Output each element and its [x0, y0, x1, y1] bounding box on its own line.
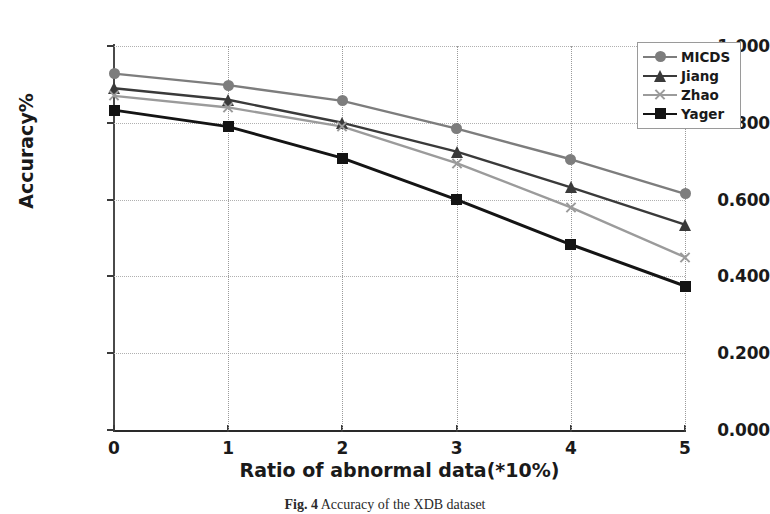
data-point-yager-0: [109, 105, 120, 116]
legend-label: Jiang: [677, 68, 719, 84]
data-point-zhao-4: [564, 201, 577, 214]
caption-text: Accuracy of the XDB dataset: [321, 497, 486, 512]
y-tick-mark: [107, 122, 114, 124]
legend-item-zhao[interactable]: Zhao: [643, 85, 735, 104]
legend-label: Yager: [677, 106, 724, 122]
legend-swatch-jiang: [643, 68, 677, 84]
data-point-jiang-4: [565, 181, 577, 193]
y-tick-label: 0.400: [684, 266, 770, 286]
y-tick-mark: [107, 352, 114, 354]
figure: Accuracy% Ratio of abnormal data(*10%) 0…: [0, 0, 770, 514]
series-lines: [114, 46, 685, 430]
y-tick-label: 0.200: [684, 343, 770, 363]
data-point-micds-1: [223, 80, 234, 91]
data-point-yager-3: [451, 194, 462, 205]
legend-item-micds[interactable]: MICDS: [643, 47, 735, 66]
x-tick-label: 5: [665, 438, 705, 458]
series-line-zhao: [114, 96, 685, 257]
data-point-micds-5: [680, 188, 691, 199]
data-point-zhao-5: [679, 251, 692, 264]
data-point-yager-4: [565, 239, 576, 250]
x-tick-label: 0: [94, 438, 134, 458]
data-point-yager-5: [680, 281, 691, 292]
legend-label: MICDS: [677, 49, 730, 65]
x-tick-label: 2: [322, 438, 362, 458]
legend-swatch-zhao: [643, 87, 677, 103]
y-tick-mark: [107, 275, 114, 277]
y-axis-label: Accuracy%: [15, 51, 37, 251]
data-point-zhao-3: [450, 157, 463, 170]
legend-swatch-yager: [643, 106, 677, 122]
data-point-jiang-5: [679, 219, 691, 231]
series-line-micds: [114, 74, 685, 194]
plot-area: [114, 46, 685, 430]
legend-item-jiang[interactable]: Jiang: [643, 66, 735, 85]
x-tick-label: 3: [437, 438, 477, 458]
figure-caption: Fig. 4 Accuracy of the XDB dataset: [0, 497, 770, 513]
x-tick-label: 4: [551, 438, 591, 458]
y-tick-mark: [107, 199, 114, 201]
x-tick-label: 1: [208, 438, 248, 458]
caption-figure-number: Fig. 4: [284, 497, 317, 512]
data-point-yager-1: [223, 121, 234, 132]
y-tick-label: 0.600: [684, 190, 770, 210]
legend-item-yager[interactable]: Yager: [643, 104, 735, 123]
x-axis-line: [113, 430, 686, 432]
data-point-zhao-0: [108, 89, 121, 102]
legend-swatch-micds: [643, 49, 677, 65]
data-point-micds-4: [565, 154, 576, 165]
x-axis-label: Ratio of abnormal data(*10%): [113, 459, 686, 481]
data-point-zhao-2: [336, 120, 349, 133]
legend[interactable]: MICDSJiangZhaoYager: [637, 42, 741, 129]
data-point-yager-2: [337, 153, 348, 164]
data-point-micds-0: [109, 68, 120, 79]
series-line-jiang: [114, 88, 685, 224]
y-tick-mark: [107, 45, 114, 47]
y-tick-label: 0.000: [684, 420, 770, 440]
legend-label: Zhao: [677, 87, 719, 103]
data-point-zhao-1: [222, 101, 235, 114]
